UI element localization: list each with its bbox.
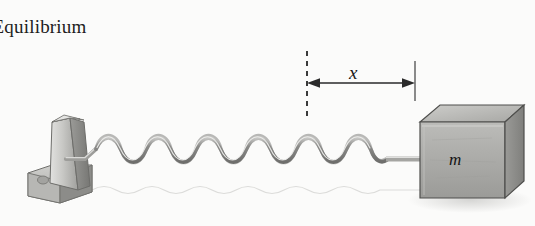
equilibrium-label: Equilibrium — [0, 16, 535, 38]
bracket-bolt-hole — [38, 176, 49, 184]
arrow-head-left — [307, 78, 320, 88]
ground-shadow — [60, 187, 432, 194]
coil-spring — [96, 136, 387, 163]
block-side-face — [505, 105, 524, 198]
physics-diagram: Equilibrium x m — [0, 0, 535, 226]
spring-front-coils — [96, 138, 387, 162]
displacement-label: x — [349, 62, 357, 84]
displacement-arrow — [307, 78, 415, 88]
mass-block — [420, 105, 524, 198]
mass-label: m — [449, 150, 461, 170]
equilibrium-label-text: Equilibrium — [0, 16, 87, 37]
arrow-head-right — [402, 78, 415, 88]
spring-highlight — [97, 137, 370, 160]
